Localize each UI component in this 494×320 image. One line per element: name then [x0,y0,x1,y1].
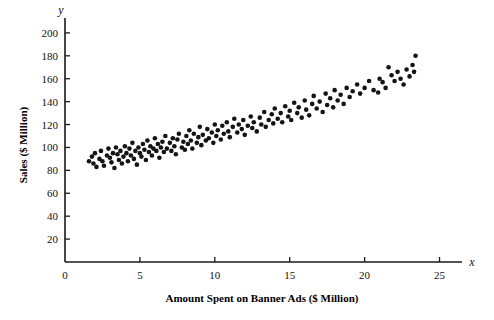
data-point [355,82,360,87]
data-point [328,96,333,101]
data-point [172,144,177,149]
data-point [407,74,412,79]
y-tick-label: 80 [47,164,59,176]
data-point [111,151,116,156]
data-point [118,149,123,154]
data-point [99,149,104,154]
data-point [210,130,215,135]
chart-canvas: y x 20406080100120140160180200 051015202… [0,0,494,320]
data-point [214,134,219,139]
data-point [248,114,253,119]
data-point [196,135,201,140]
data-point [142,147,147,152]
data-point [241,118,246,123]
data-point [108,155,113,160]
y-tick-label: 140 [42,96,59,108]
data-point [289,118,294,123]
data-point [139,154,144,159]
data-point [159,145,164,150]
data-point [280,120,285,125]
data-point [136,145,141,150]
data-point [169,149,174,154]
data-point [141,142,146,147]
data-point [114,145,119,150]
data-point [235,130,240,135]
data-point [219,137,224,142]
data-point [263,125,268,130]
data-point [109,160,114,165]
y-tick-label: 60 [47,187,59,199]
data-point [216,128,221,133]
data-point [386,65,391,70]
data-point [331,105,336,110]
y-tick-label: 120 [42,119,59,131]
data-point [183,147,188,152]
data-point [160,139,165,144]
data-point [175,137,180,142]
data-point [371,88,376,93]
data-point [254,129,259,134]
data-point [177,131,182,136]
data-point [144,158,149,163]
data-point [207,136,212,141]
data-point [358,91,363,96]
data-point [230,125,235,130]
data-point [320,110,325,115]
x-tick-label: 15 [284,269,296,281]
data-point [236,122,241,127]
data-point [201,133,206,138]
data-point [130,141,135,146]
data-point [367,79,372,84]
data-point [199,143,204,148]
data-point [227,135,232,140]
data-point [225,120,230,125]
x-tick-label: 25 [434,269,446,281]
data-point [335,98,340,103]
data-point [350,89,355,94]
y-tick-label: 20 [47,233,59,245]
data-point [389,73,394,78]
data-point [163,134,168,139]
data-point [310,102,315,107]
x-tick-label: 20 [359,269,371,281]
data-point [189,138,194,143]
data-point [153,136,158,141]
data-point [325,103,330,108]
data-point [317,99,322,104]
data-point [412,70,417,75]
data-point [314,106,319,111]
data-point [376,90,381,95]
scatter-plot-figure: y x 20406080100120140160180200 051015202… [0,0,494,320]
data-point [380,80,385,85]
x-tick-label: 5 [137,269,143,281]
data-point [395,70,400,75]
y-tick-label: 200 [42,27,59,39]
data-point [392,79,397,84]
data-point [262,110,267,115]
data-point [296,105,301,110]
data-point [165,146,170,151]
data-point [257,115,262,120]
data-point [87,159,92,164]
data-point [292,100,297,105]
data-point [404,67,409,72]
data-point [100,159,105,164]
data-point [135,162,140,167]
data-point [132,157,137,162]
data-point [266,118,271,123]
data-point [192,131,197,136]
y-tick-label: 180 [42,50,59,62]
data-points-layer [87,54,418,171]
data-point [302,98,307,103]
data-point [271,121,276,126]
data-point [410,63,415,68]
y-tick-label: 160 [42,73,59,85]
data-point [124,151,129,156]
x-axis-ticks: 0510152025 [62,257,445,281]
data-point [413,54,418,59]
y-tick-label: 100 [42,141,59,153]
data-point [220,123,225,128]
data-point [211,141,216,146]
data-point [295,111,300,116]
data-point [102,163,107,168]
